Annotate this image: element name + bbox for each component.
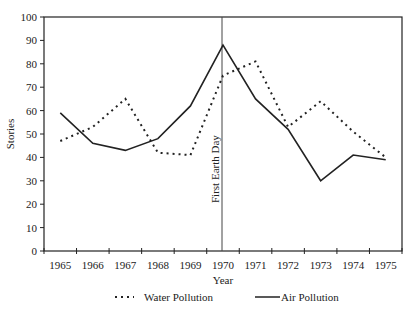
x-tick-label: 1967: [114, 259, 137, 271]
x-tick-label: 1972: [277, 259, 299, 271]
air-pollution-line: [60, 45, 385, 181]
line-chart: 0102030405060708090100 19651966196719681…: [0, 0, 416, 314]
x-tick-label: 1968: [147, 259, 170, 271]
x-tick-label: 1974: [342, 259, 365, 271]
y-tick-label: 50: [26, 128, 38, 140]
chart-canvas: 0102030405060708090100 19651966196719681…: [0, 0, 416, 314]
y-tick-label: 70: [26, 81, 38, 93]
x-tick-label: 1971: [245, 259, 267, 271]
legend-water-label: Water Pollution: [144, 291, 214, 303]
y-tick-label: 20: [26, 198, 38, 210]
x-tick-label: 1973: [310, 259, 333, 271]
x-tick-label: 1965: [49, 259, 72, 271]
plot-frame: [44, 17, 402, 251]
y-tick-label: 100: [21, 11, 38, 23]
y-tick-label: 10: [26, 222, 38, 234]
series-lines: [60, 45, 385, 181]
x-tick-label: 1975: [375, 259, 398, 271]
y-tick-label: 30: [26, 175, 38, 187]
plot-border: [44, 17, 402, 251]
y-tick-label: 60: [26, 105, 38, 117]
y-tick-label: 80: [26, 58, 38, 70]
earth-day-label: First Earth Day: [209, 135, 221, 203]
y-tick-label: 40: [26, 151, 38, 163]
x-tick-label: 1970: [212, 259, 235, 271]
y-axis-title: Stories: [4, 119, 16, 150]
x-axis-title: Year: [213, 274, 234, 286]
x-tick-label: 1966: [82, 259, 105, 271]
y-tick-label: 0: [32, 245, 38, 257]
legend: Water Pollution Air Pollution: [115, 291, 339, 303]
legend-air-label: Air Pollution: [281, 291, 339, 303]
y-axis: 0102030405060708090100: [21, 11, 45, 257]
x-tick-label: 1969: [179, 259, 202, 271]
water-pollution-line: [60, 61, 385, 157]
y-tick-label: 90: [26, 34, 38, 46]
